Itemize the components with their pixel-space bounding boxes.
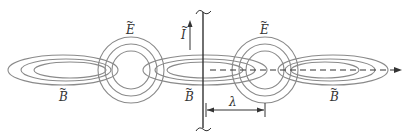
wavelength-label: λ (228, 95, 237, 109)
b-field-loops-middle (143, 55, 267, 85)
wavelength-arrow-left-icon (207, 108, 214, 113)
magnetic-field-label-1: B (58, 90, 68, 104)
label-b-1: ~ B (58, 84, 68, 104)
b-field-loops-left (8, 55, 118, 85)
label-b-3: ~ B (329, 84, 339, 104)
antenna-bottom-wave (196, 128, 211, 131)
label-current: ~ I (180, 22, 189, 42)
magnetic-field-label-2: B (184, 90, 194, 104)
em-wave-diagram: ~ I ~ E ~ E ~ B ~ B ~ B λ (0, 0, 411, 137)
electric-field-label-2: E (259, 23, 269, 37)
label-b-2: ~ B (184, 84, 194, 104)
axis-arrowhead-icon (394, 67, 402, 73)
wavelength-arrow-right-icon (257, 108, 264, 113)
magnetic-field-label-3: B (329, 90, 339, 104)
label-e-2: ~ E (259, 17, 269, 37)
electric-field-label-1: E (125, 23, 135, 37)
current-label: I (180, 28, 186, 42)
label-e-1: ~ E (125, 17, 135, 37)
antenna (196, 10, 211, 131)
e-field-loops-1 (98, 37, 164, 103)
